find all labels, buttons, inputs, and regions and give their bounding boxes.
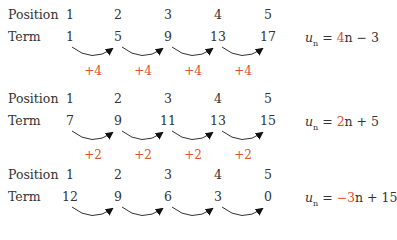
- arrow-icon: [172, 207, 212, 216]
- arrow-icon: [222, 131, 262, 140]
- arrow-icon: [172, 131, 212, 140]
- difference-label: +4: [234, 64, 252, 78]
- nth-term-formula: un = 4n − 3: [305, 30, 379, 48]
- difference-label: +4: [84, 64, 102, 78]
- arrow-icon: [72, 131, 112, 140]
- difference-label: +4: [184, 64, 202, 78]
- arrow-icon: [172, 47, 212, 56]
- sequence-block-2: Position 1 2 3 4 5 Term 7 9 11 13 15 +2 …: [0, 84, 395, 164]
- arrow-icon: [72, 207, 112, 216]
- arrow-icon: [122, 207, 162, 216]
- nth-term-formula: un = 2n + 5: [305, 114, 379, 132]
- arrow-icon: [222, 207, 262, 216]
- arrow-icon: [122, 47, 162, 56]
- nth-term-formula: un = −3n + 15: [305, 190, 397, 208]
- difference-label: +4: [134, 64, 152, 78]
- sequence-block-3: Position 1 2 3 4 5 Term 12 9 6 3 0 un = …: [0, 160, 395, 240]
- arrow-icon: [72, 47, 112, 56]
- arrow-icon: [222, 47, 262, 56]
- arrow-icon: [122, 131, 162, 140]
- sequence-block-1: Position 1 2 3 4 5 Term 1 5 9 13 17 +4 +…: [0, 0, 395, 80]
